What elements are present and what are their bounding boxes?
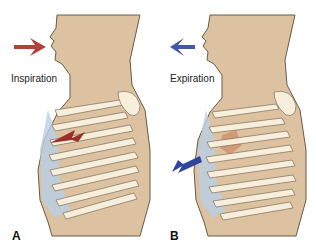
illustration-svg (0, 0, 316, 251)
expiration-arrow-icon (170, 38, 195, 56)
panel-b-letter: B (170, 229, 179, 243)
inspiration-label: Inspiration (11, 73, 57, 84)
inspiration-arrow-icon (14, 38, 46, 56)
panel-a-letter: A (12, 229, 21, 243)
panel-a-figure (38, 15, 150, 236)
expiration-label: Expiration (170, 73, 214, 84)
respiration-illustration: Inspiration Expiration A B (0, 0, 316, 251)
